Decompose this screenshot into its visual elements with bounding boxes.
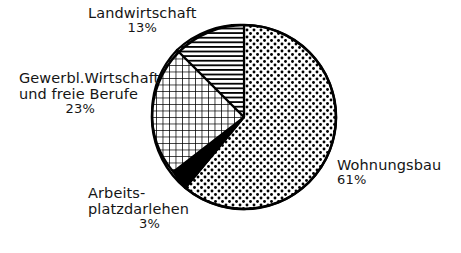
pie-chart-figure: Landwirtschaft 13% Gewerbl.Wirtschaft un…: [0, 0, 461, 253]
slice-label-gewerbliche-wirtschaft-title-line1: Gewerbl.Wirtschaft: [19, 70, 159, 86]
slice-label-gewerbliche-wirtschaft-percent: 23%: [19, 102, 159, 117]
slice-label-wohnungsbau-percent: 61%: [337, 173, 441, 188]
slice-label-wohnungsbau-title: Wohnungsbau: [337, 157, 441, 173]
slice-label-wohnungsbau: Wohnungsbau 61%: [337, 157, 441, 188]
slice-label-arbeitsplatzdarlehen-percent: 3%: [88, 217, 189, 232]
slice-label-landwirtschaft-title: Landwirtschaft: [88, 5, 196, 21]
pie-chart-svg: [0, 0, 461, 253]
slice-label-gewerbliche-wirtschaft-title-line2: und freie Berufe: [19, 86, 159, 102]
slice-label-landwirtschaft: Landwirtschaft 13%: [88, 5, 196, 36]
slice-label-arbeitsplatzdarlehen: Arbeits- platzdarlehen 3%: [88, 185, 189, 232]
slice-label-landwirtschaft-percent: 13%: [88, 21, 196, 36]
slice-label-gewerbliche-wirtschaft: Gewerbl.Wirtschaft und freie Berufe 23%: [19, 70, 159, 117]
slice-label-arbeitsplatzdarlehen-title-line2: platzdarlehen: [88, 201, 189, 217]
slice-label-arbeitsplatzdarlehen-title-line1: Arbeits-: [88, 185, 189, 201]
